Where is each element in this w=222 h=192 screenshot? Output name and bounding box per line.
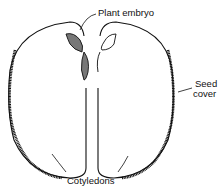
embryo-left-stem: [81, 52, 88, 80]
embryo-right-leaf: [101, 34, 116, 50]
seed-cover-right: [122, 50, 173, 178]
seed-diagram: [0, 0, 222, 192]
label-cotyledons: Cotyledons: [67, 176, 115, 186]
seed-cover-left: [10, 50, 62, 178]
cotyledon-pointer-right: [118, 156, 128, 172]
label-plant-embryo: Plant embryo: [98, 8, 154, 18]
cotyledon-pointer-left: [52, 154, 66, 172]
embryo-pointer: [80, 14, 96, 30]
cover-pointer: [178, 88, 192, 92]
embryo-right-stem: [97, 52, 100, 72]
label-cover: cover: [193, 89, 216, 99]
embryo-left-leaf: [66, 34, 83, 52]
